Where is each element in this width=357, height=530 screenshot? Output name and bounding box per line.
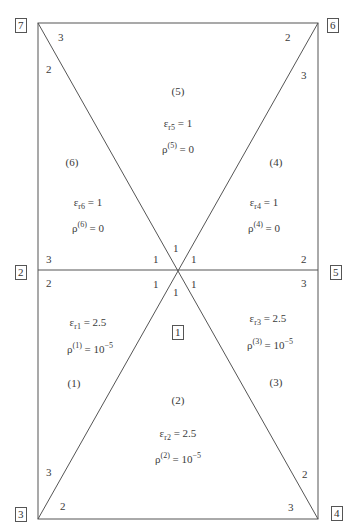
node-box-3: 3 xyxy=(15,507,27,522)
node-box-2: 2 xyxy=(15,265,27,280)
region-5-permittivity: εr5 = 1 xyxy=(164,117,193,132)
region-1-charge-density: ρ(1) = 10−5 xyxy=(67,341,113,355)
node-box-1: 1 xyxy=(172,325,184,340)
local-label: 2 xyxy=(302,469,308,480)
local-label: 2 xyxy=(60,501,66,512)
region-5-charge-density: ρ(5) = 0 xyxy=(162,141,194,155)
local-label: 1 xyxy=(191,279,197,290)
region-label-5: (5) xyxy=(172,85,185,97)
local-label: 3 xyxy=(46,467,52,478)
region-label-1: (1) xyxy=(68,377,81,389)
local-label: 3 xyxy=(301,70,307,81)
local-label: 2 xyxy=(46,64,52,75)
region-1-permittivity: εr1 = 2.5 xyxy=(70,316,107,331)
node-box-4: 4 xyxy=(331,506,343,521)
local-label: 3 xyxy=(46,254,52,265)
local-label: 3 xyxy=(288,502,294,513)
local-label: 1 xyxy=(153,279,159,290)
region-label-6: (6) xyxy=(66,156,79,168)
region-3-charge-density: ρ(3) = 10−5 xyxy=(247,337,293,351)
local-label: 3 xyxy=(301,278,307,289)
local-label: 1 xyxy=(173,243,179,254)
local-label: 3 xyxy=(58,32,64,43)
region-2-permittivity: εr2 = 2.5 xyxy=(160,427,197,442)
local-label: 2 xyxy=(285,32,291,43)
local-label: 1 xyxy=(173,287,179,298)
region-label-4: (4) xyxy=(270,156,283,168)
node-box-5: 5 xyxy=(330,265,342,280)
local-label: 1 xyxy=(191,254,197,265)
local-label: 1 xyxy=(153,254,159,265)
region-label-2: (2) xyxy=(172,394,185,406)
local-label: 2 xyxy=(301,254,307,265)
local-label: 2 xyxy=(46,278,52,289)
region-4-charge-density: ρ(4) = 0 xyxy=(248,220,280,234)
region-3-permittivity: εr3 = 2.5 xyxy=(250,312,287,327)
region-label-3: (3) xyxy=(270,376,283,388)
node-box-6: 6 xyxy=(327,18,339,33)
region-4-permittivity: εr4 = 1 xyxy=(250,196,279,211)
region-2-charge-density: ρ(2) = 10−5 xyxy=(155,451,201,465)
region-6-charge-density: ρ(6) = 0 xyxy=(72,220,104,234)
region-6-permittivity: εr6 = 1 xyxy=(74,196,103,211)
node-box-7: 7 xyxy=(15,18,27,33)
